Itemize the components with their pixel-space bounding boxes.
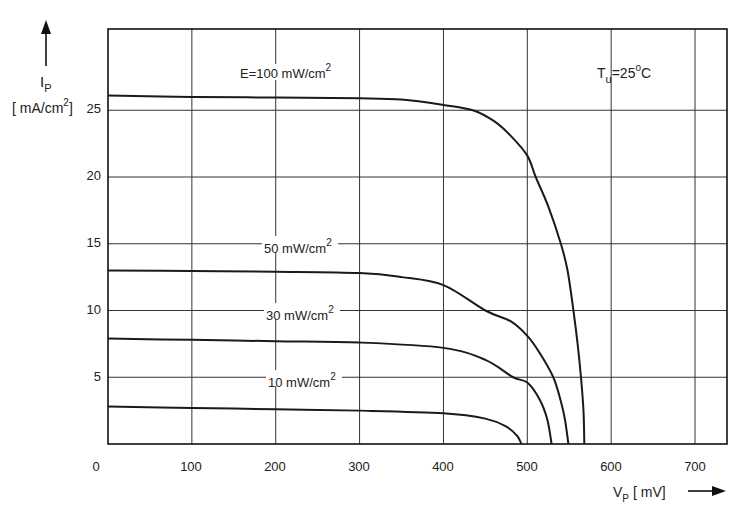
svg-text:[ mA/cm2]: [ mA/cm2]: [12, 97, 73, 116]
y-tick-5: 5: [94, 369, 101, 384]
y-tick-25: 25: [87, 101, 101, 116]
curve-series-2: [108, 339, 552, 444]
curve-series-3: [108, 407, 521, 444]
x-tick-100: 100: [180, 459, 202, 474]
x-tick-labels: 0 100 200 300 400 500 600 700: [92, 459, 705, 474]
curve-series-1: [108, 270, 568, 444]
x-tick-300: 300: [348, 459, 370, 474]
x-subscript: P: [622, 493, 629, 504]
y-tick-15: 15: [87, 235, 101, 250]
up-arrow-icon: [41, 20, 51, 34]
x-tick-400: 400: [432, 459, 454, 474]
y-tick-20: 20: [87, 168, 101, 183]
y-tick-labels: 25 20 15 10 5: [87, 101, 101, 384]
x-axis-label: VP[ mV]: [613, 484, 726, 504]
iv-characteristic-chart: 25 20 15 10 5 0 100 200 300 400 500 600 …: [0, 0, 749, 519]
y-axis-label: IP [ mA/cm2]: [12, 20, 73, 116]
x-tick-200: 200: [264, 459, 286, 474]
y-unit: [ mA/cm: [12, 100, 63, 116]
x-tick-500: 500: [516, 459, 538, 474]
y-subscript: P: [44, 82, 51, 94]
curve-series-0: [108, 96, 584, 444]
x-unit: [ mV]: [633, 484, 666, 500]
x-tick-700: 700: [684, 459, 706, 474]
curves: [108, 96, 584, 444]
x-tick-0: 0: [92, 459, 99, 474]
temperature-annotation: Tu=25oC: [597, 62, 651, 85]
x-tick-600: 600: [600, 459, 622, 474]
plot-frame: [108, 29, 727, 444]
y-unit-close: ]: [69, 100, 73, 116]
svg-text:VP[ mV]: VP[ mV]: [613, 484, 666, 504]
svg-text:IP: IP: [40, 73, 52, 94]
grid-lines: [108, 29, 727, 444]
y-tick-10: 10: [87, 302, 101, 317]
right-arrow-icon: [712, 486, 726, 496]
